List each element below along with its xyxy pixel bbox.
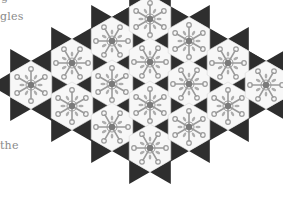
- dark-triangle: [0, 73, 10, 97]
- tiling-illustration: [0, 0, 283, 202]
